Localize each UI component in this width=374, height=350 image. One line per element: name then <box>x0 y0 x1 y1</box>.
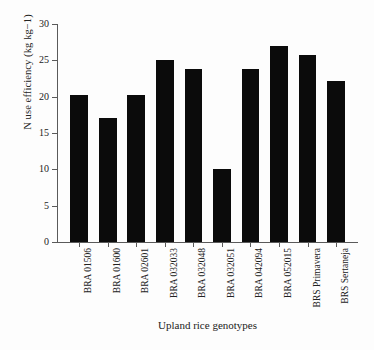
x-axis-tick <box>250 243 251 247</box>
bar <box>299 55 317 242</box>
y-axis-tick: 5 <box>52 206 57 207</box>
y-axis-tick-label: 20 <box>39 90 49 103</box>
y-axis-tick-label: 10 <box>39 162 49 175</box>
bar <box>213 169 231 242</box>
bar-chart-figure: N use efficiency (kg kg−1) 051015202530 … <box>0 0 374 350</box>
y-axis-tick: 0 <box>52 242 57 243</box>
bar <box>70 95 88 242</box>
y-axis-tick-label: 25 <box>39 53 49 66</box>
x-axis-tick <box>279 243 280 247</box>
x-axis-tick <box>79 243 80 247</box>
y-axis-tick-label: 15 <box>39 126 49 139</box>
x-axis-tick <box>336 243 337 247</box>
x-axis-tick <box>193 243 194 247</box>
y-axis-tick-label: 5 <box>44 199 49 212</box>
y-axis-tick: 15 <box>52 133 57 134</box>
bar <box>99 118 117 242</box>
bar <box>185 69 203 242</box>
x-axis-spine <box>57 242 358 243</box>
x-axis-tick <box>165 243 166 247</box>
y-axis-tick-label: 30 <box>39 17 49 30</box>
y-axis-tick: 20 <box>52 97 57 98</box>
bar <box>270 46 288 242</box>
x-axis-tick <box>308 243 309 247</box>
x-axis-tick <box>222 243 223 247</box>
y-axis-spine <box>57 24 58 243</box>
y-axis-tick: 30 <box>52 24 57 25</box>
y-axis-tick-label: 0 <box>44 235 49 248</box>
bar <box>242 69 260 242</box>
x-axis-tick <box>108 243 109 247</box>
y-axis-tick: 25 <box>52 60 57 61</box>
x-axis-tick <box>136 243 137 247</box>
x-axis-title: Upland rice genotypes <box>57 319 358 331</box>
y-axis-title: N use efficiency (kg kg−1) <box>18 0 38 162</box>
bar <box>327 81 345 242</box>
bar <box>156 60 174 242</box>
bar <box>127 95 145 242</box>
y-axis-tick: 10 <box>52 169 57 170</box>
plot-area: 051015202530 BRA 01506BRA 01600BRA 02601… <box>57 24 358 242</box>
